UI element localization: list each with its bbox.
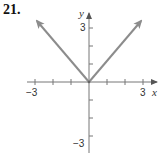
y-tick-label-neg: −3: [73, 138, 85, 149]
graph: y 3 −3 −3 3 x: [0, 0, 161, 165]
x-axis-label: x: [151, 86, 157, 98]
y-axis-label: y: [78, 7, 84, 19]
x-tick-label-pos: 3: [140, 87, 146, 98]
y-tick-label-pos: 3: [80, 22, 86, 33]
x-tick-label-neg: −3: [26, 87, 38, 98]
